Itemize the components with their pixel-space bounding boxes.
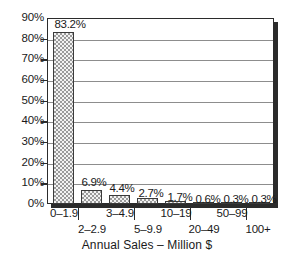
y-tick-label: 90% <box>0 12 44 24</box>
bar-value-label: 4.4% <box>109 183 134 195</box>
y-tick-label: 50% <box>0 95 44 107</box>
y-tick-label: 60% <box>0 74 44 86</box>
bar-chart: 90% 80% 70% 60% 50% 40% 30% 20% 10% 0% <box>0 0 294 262</box>
x-tick-label-20-49: 20–49 <box>189 224 220 236</box>
bar-value-label: 1.7% <box>167 192 192 204</box>
x-axis: 0–1.9 3–4.9 10–19 50–99 2–2.9 5–9.9 20–4… <box>0 204 294 262</box>
x-tick-label-10-19: 10–19 <box>161 208 192 220</box>
bar-value-label: 6.9% <box>81 177 106 189</box>
bar-value-label: 2.7% <box>138 188 163 200</box>
x-tick-label-100plus: 100+ <box>245 224 270 236</box>
y-tick-label: 80% <box>0 33 44 45</box>
bar-3-4.9 <box>109 195 130 204</box>
bar-0-1.9 <box>53 32 74 204</box>
x-tick-label-2-2.9: 2–2.9 <box>78 224 106 236</box>
y-tick-label: 70% <box>0 54 44 66</box>
bar-value-label: 83.2% <box>54 19 85 31</box>
y-tick-label: 30% <box>0 136 44 148</box>
x-axis-title: Annual Sales – Million $ <box>0 238 294 252</box>
y-axis: 90% 80% 70% 60% 50% 40% 30% 20% 10% 0% <box>0 0 46 210</box>
y-tick-label: 20% <box>0 157 44 169</box>
bars-layer: 83.2% 6.9% 4.4% 2.7% 1.7% 0.6% 0.3% 0.3% <box>47 18 274 204</box>
x-tick-label-5-9.9: 5–9.9 <box>134 224 162 236</box>
x-tick-label-0-1.9: 0–1.9 <box>50 208 78 220</box>
x-axis-tick <box>78 206 79 220</box>
x-tick-label-50-99: 50–99 <box>217 208 248 220</box>
y-tick-label: 40% <box>0 116 44 128</box>
bar-2-2.9 <box>81 190 102 204</box>
x-axis-tick <box>134 206 135 220</box>
y-tick-label: 10% <box>0 178 44 190</box>
x-tick-label-3-4.9: 3–4.9 <box>106 208 134 220</box>
